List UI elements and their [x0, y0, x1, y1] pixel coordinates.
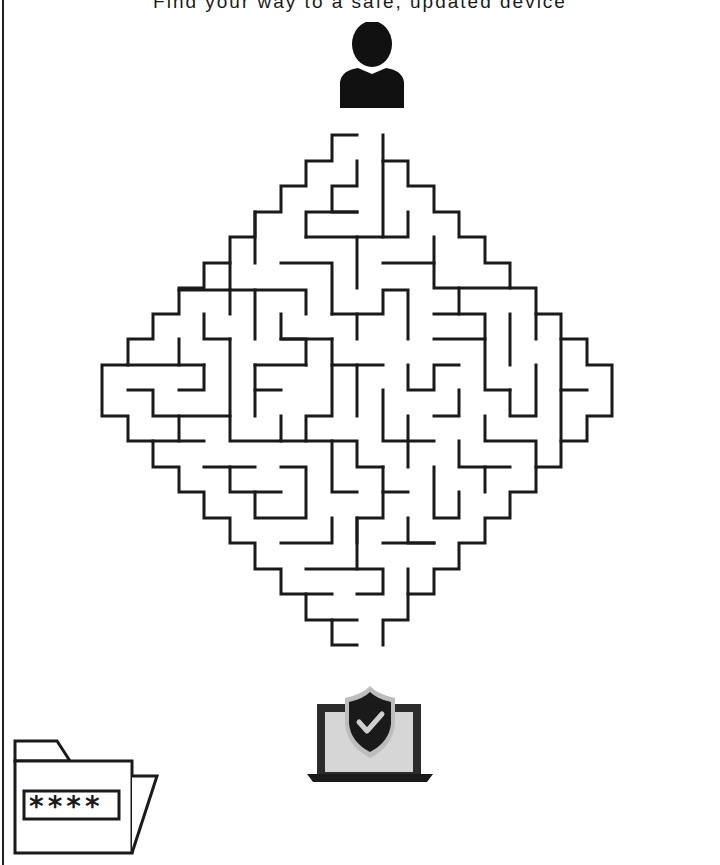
password-folder-icon: **** — [12, 738, 162, 858]
laptop-shield-check-icon — [305, 682, 435, 784]
password-mask: **** — [29, 790, 104, 823]
